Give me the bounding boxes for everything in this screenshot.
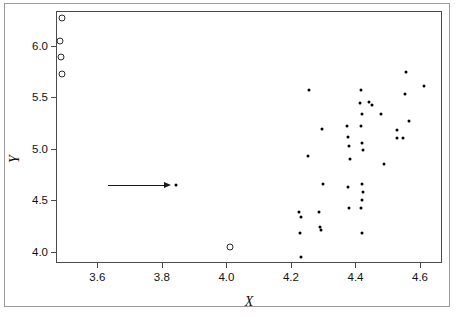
data-point	[360, 125, 363, 128]
data-point	[320, 128, 323, 131]
data-point	[422, 84, 425, 87]
y-axis-tick	[51, 200, 57, 201]
data-point	[404, 71, 407, 74]
data-point	[361, 149, 364, 152]
data-point	[226, 244, 233, 251]
plot-area: 4.04.55.05.56.03.63.84.04.24.44.6	[57, 12, 441, 262]
data-point	[407, 120, 410, 123]
data-point	[321, 182, 324, 185]
y-axis-tick	[51, 97, 57, 98]
data-point	[360, 141, 363, 144]
data-point	[359, 101, 362, 104]
data-point	[348, 145, 351, 148]
x-axis-tick-label: 4.0	[218, 271, 234, 283]
data-point	[395, 129, 398, 132]
y-axis-tick-label: 4.5	[32, 194, 48, 206]
data-point	[402, 136, 405, 139]
data-point	[347, 136, 350, 139]
data-point	[361, 191, 364, 194]
y-axis-tick-label: 5.5	[32, 91, 48, 103]
arrow-head-icon	[164, 182, 171, 188]
y-axis-tick-label: 5.0	[32, 143, 48, 155]
data-point	[368, 100, 371, 103]
x-axis-tick	[291, 262, 292, 268]
data-point	[360, 112, 363, 115]
data-point	[318, 211, 321, 214]
x-axis-tick-label: 4.6	[412, 271, 428, 283]
y-axis-label: Y	[7, 155, 23, 163]
x-axis-tick-label: 3.6	[89, 271, 105, 283]
data-point	[348, 206, 351, 209]
data-point	[299, 215, 302, 218]
data-point	[306, 155, 309, 158]
data-point	[58, 53, 65, 60]
data-point	[360, 198, 363, 201]
data-point	[403, 92, 406, 95]
data-point	[346, 124, 349, 127]
x-axis-tick-label: 4.2	[283, 271, 299, 283]
x-axis-tick-label: 3.8	[154, 271, 170, 283]
data-point	[307, 89, 310, 92]
data-point	[298, 211, 301, 214]
data-point	[382, 163, 385, 166]
plot-panel: 4.04.55.05.56.03.63.84.04.24.44.6	[56, 11, 442, 263]
data-point	[57, 38, 64, 45]
data-point	[379, 112, 382, 115]
x-axis-tick	[162, 262, 163, 268]
data-point	[360, 206, 363, 209]
data-point	[58, 15, 65, 22]
data-point	[300, 256, 303, 259]
arrow-shaft	[108, 185, 164, 186]
data-point	[360, 89, 363, 92]
y-axis-tick-label: 6.0	[32, 40, 48, 52]
data-point	[58, 71, 65, 78]
data-point	[347, 186, 350, 189]
data-point	[360, 182, 363, 185]
data-point	[396, 137, 399, 140]
x-axis-tick	[355, 262, 356, 268]
x-axis-tick	[420, 262, 421, 268]
data-point	[175, 184, 178, 187]
data-point	[371, 104, 374, 107]
x-axis-label: X	[56, 294, 442, 310]
x-axis-tick	[97, 262, 98, 268]
scatter-plot-figure: Y X 4.04.55.05.56.03.63.84.04.24.44.6	[0, 0, 456, 317]
y-axis-tick	[51, 149, 57, 150]
y-axis-tick	[51, 46, 57, 47]
data-point	[319, 228, 322, 231]
y-axis-tick-label: 4.0	[32, 246, 48, 258]
y-axis-tick	[51, 252, 57, 253]
data-point	[360, 232, 363, 235]
data-point	[298, 232, 301, 235]
x-axis-tick	[226, 262, 227, 268]
data-point	[348, 157, 351, 160]
x-axis-tick-label: 4.4	[347, 271, 363, 283]
